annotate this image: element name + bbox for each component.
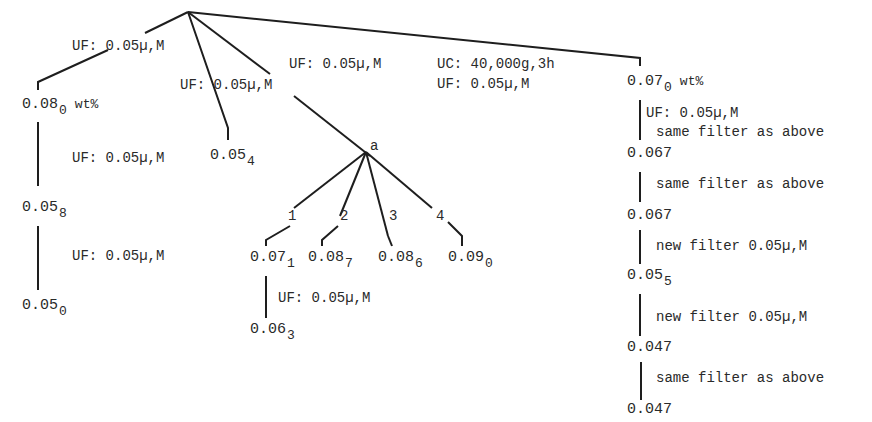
value-a-4: 0.090	[448, 250, 493, 266]
branch-number-4: 4	[436, 208, 444, 224]
edge-label-a1-step: UF: 0.05µ,M	[278, 290, 370, 306]
value-right-6: 0.047	[627, 402, 672, 418]
edge-label-right-step5: same filter as above	[656, 370, 824, 386]
branch-number-1: 1	[288, 208, 296, 224]
value-mid: 0.054	[210, 148, 255, 164]
edge-label-left: UF: 0.05µ,M	[72, 38, 164, 54]
edge-label-right-step1a: UF: 0.05µ,M	[646, 105, 738, 121]
node-a-label: a	[370, 138, 378, 154]
value-a-3: 0.086	[378, 250, 423, 266]
value-a-2: 0.087	[308, 250, 353, 266]
value-left-3: 0.050	[22, 298, 67, 314]
edge-label-left-step2: UF: 0.05µ,M	[72, 248, 164, 264]
edge-label-left-step1: UF: 0.05µ,M	[72, 150, 164, 166]
value-right-1: 0.070wt%	[627, 74, 703, 90]
value-right-4: 0.055	[627, 268, 672, 284]
branch-number-3: 3	[389, 208, 397, 224]
value-right-2: 0.067	[627, 146, 672, 162]
edge-label-right-step4: new filter 0.05µ,M	[656, 309, 807, 325]
value-a-1-next: 0.063	[250, 322, 295, 338]
edge-label-mid-top: UF: 0.05µ,M	[289, 56, 381, 72]
branch-number-2: 2	[340, 208, 348, 224]
value-right-5: 0.047	[627, 340, 672, 356]
value-left-1: 0.080wt%	[22, 97, 98, 113]
edge-label-mid-left: UF: 0.05µ,M	[180, 77, 272, 93]
edge-label-uc: UC: 40,000g,3h	[437, 56, 555, 72]
edge-label-right-step3: new filter 0.05µ,M	[656, 238, 807, 254]
edge-label-right-step1b: same filter as above	[656, 124, 824, 140]
value-right-3: 0.067	[627, 208, 672, 224]
value-a-1: 0.071	[250, 250, 295, 266]
value-left-2: 0.058	[22, 200, 67, 216]
edge-label-right-step2: same filter as above	[656, 176, 824, 192]
edge-label-uc-uf: UF: 0.05µ,M	[437, 76, 529, 92]
